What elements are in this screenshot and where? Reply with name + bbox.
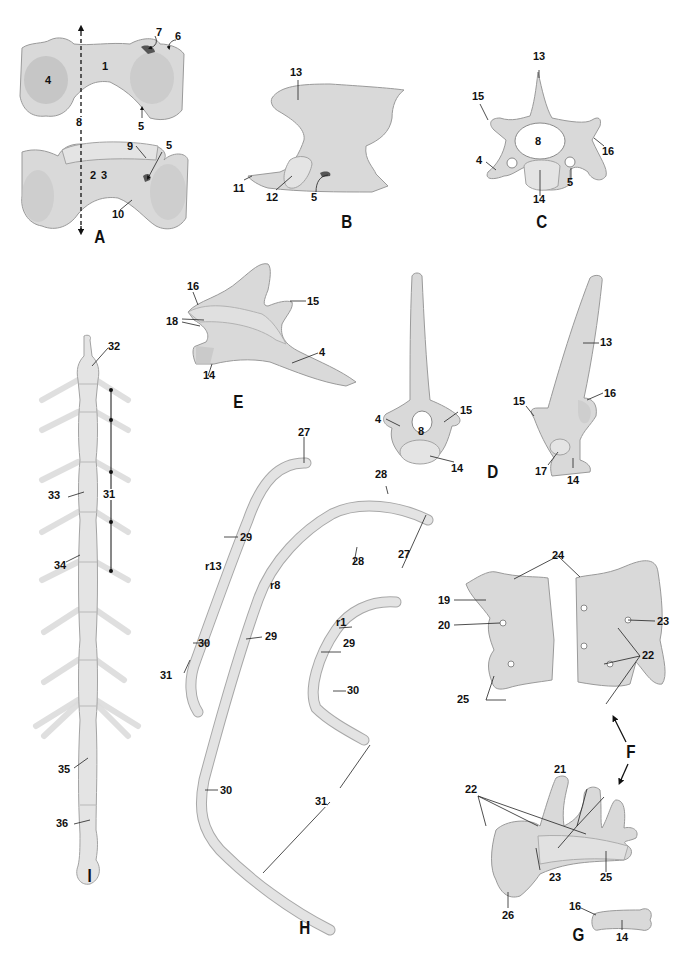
- callout-e-14: 14: [203, 370, 215, 381]
- callout-h-r1: r1: [336, 617, 346, 628]
- callout-i-32: 32: [108, 341, 120, 352]
- callout-d-14-cranial: 14: [451, 463, 463, 474]
- callout-a-5-upper: 5: [138, 121, 144, 132]
- callout-e-15: 15: [307, 296, 319, 307]
- callout-e-4: 4: [319, 347, 325, 358]
- callout-h-27-r13: 27: [298, 427, 310, 438]
- panel-label-e: E: [233, 392, 243, 411]
- callout-f-22-lateral: 22: [465, 784, 477, 795]
- panel-label-g: G: [572, 925, 584, 944]
- callout-d-16: 16: [604, 388, 616, 399]
- panel-f-sacrum-ventral: [576, 561, 665, 686]
- callout-h-31-r13: 31: [160, 670, 172, 681]
- callout-d-17: 17: [535, 466, 547, 477]
- panel-label-a: A: [94, 227, 105, 246]
- callout-h-29-r8: 29: [265, 631, 277, 642]
- callout-d-4: 4: [375, 414, 381, 425]
- callout-a-6: 6: [175, 31, 181, 42]
- callout-f-19: 19: [438, 595, 450, 606]
- callout-a-1: 1: [102, 61, 108, 72]
- callout-h-29-r13: 29: [240, 532, 252, 543]
- panel-f-sacrum-lateral: [492, 776, 638, 897]
- callout-h-r13: r13: [205, 561, 222, 572]
- callout-f-25-lateral: 25: [600, 872, 612, 883]
- callout-e-18: 18: [166, 316, 178, 327]
- callout-i-36: 36: [56, 818, 68, 829]
- callout-a-2: 2: [90, 170, 96, 181]
- callout-c-4: 4: [476, 155, 482, 166]
- callout-d-14-lateral: 14: [567, 475, 579, 486]
- callout-h-27-r1: 27: [398, 549, 410, 560]
- callout-d-15-lateral: 15: [513, 396, 525, 407]
- callout-a-7: 7: [156, 27, 162, 38]
- callout-e-16: 16: [187, 281, 199, 292]
- panel-f-sacrum-dorsal: [466, 572, 554, 689]
- panel-i-vertebral-column: [36, 335, 138, 884]
- callout-i-31: 31: [103, 489, 115, 500]
- panel-label-c: C: [536, 212, 547, 231]
- callout-c-13: 13: [533, 51, 545, 62]
- callout-h-28-r8: 28: [375, 469, 387, 480]
- callout-c-15: 15: [472, 91, 484, 102]
- callout-a-5-lower: 5: [166, 140, 172, 151]
- callout-c-8: 8: [535, 136, 541, 147]
- callout-f-26: 26: [502, 910, 514, 921]
- panel-label-h: H: [299, 918, 310, 937]
- callout-f-23-ventral: 23: [657, 616, 669, 627]
- panel-c-cervical-vertebra: [487, 70, 606, 190]
- callout-d-13: 13: [600, 337, 612, 348]
- figure-artwork: [0, 0, 691, 967]
- panel-label-d: D: [487, 462, 498, 481]
- callout-d-15-cranial: 15: [460, 405, 472, 416]
- callout-h-30-r13: 30: [198, 638, 210, 649]
- callout-h-30-r8: 30: [220, 785, 232, 796]
- callout-a-9: 9: [127, 141, 133, 152]
- callout-b-11: 11: [233, 183, 245, 194]
- callout-i-35: 35: [58, 764, 70, 775]
- callout-a-4: 4: [45, 75, 51, 86]
- panel-label-i: I: [88, 866, 92, 885]
- callout-h-28-r1: 28: [352, 556, 364, 567]
- callout-a-8: 8: [76, 117, 82, 128]
- callout-a-10: 10: [112, 209, 124, 220]
- panel-a-atlas-ventral: [22, 142, 188, 229]
- callout-h-31: 31: [315, 796, 327, 807]
- anatomy-figure: 1 2 3 4 5 5 6 7 8 9 10 A 13 11 12 5 B 13…: [0, 0, 691, 967]
- callout-h-29-r1: 29: [343, 638, 355, 649]
- callout-f-25-dorsal: 25: [457, 694, 469, 705]
- callout-c-14: 14: [533, 194, 545, 205]
- callout-g-14: 14: [616, 932, 628, 943]
- callout-h-r8: r8: [270, 580, 280, 591]
- panel-e-vertebra-lateral: [188, 264, 356, 386]
- panel-label-f: F: [626, 742, 635, 761]
- panel-label-b: B: [341, 212, 352, 231]
- callout-f-24: 24: [552, 550, 564, 561]
- callout-b-5: 5: [311, 192, 317, 203]
- callout-i-34: 34: [54, 560, 66, 571]
- callout-b-13: 13: [290, 67, 302, 78]
- callout-c-5: 5: [567, 177, 573, 188]
- callout-i-33: 33: [48, 490, 60, 501]
- callout-f-21: 21: [554, 764, 566, 775]
- callout-c-16: 16: [602, 146, 614, 157]
- callout-f-22-ventral: 22: [642, 650, 654, 661]
- callout-g-16: 16: [569, 901, 581, 912]
- callout-a-3: 3: [101, 170, 107, 181]
- callout-h-30-r1: 30: [347, 685, 359, 696]
- panel-h-ribs: [191, 463, 428, 930]
- callout-f-23-lateral: 23: [549, 872, 561, 883]
- callout-f-20: 20: [438, 620, 450, 631]
- callout-d-8: 8: [418, 426, 424, 437]
- callout-b-12: 12: [266, 192, 278, 203]
- panel-d-vertebra-lateral: [531, 275, 602, 476]
